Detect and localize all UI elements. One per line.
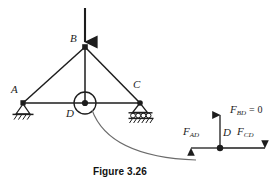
force-symbol-fcd: F [237, 125, 244, 137]
truss-members [23, 47, 140, 103]
node-b [82, 44, 88, 50]
pin-support-a [13, 104, 34, 120]
figure-caption: Figure 3.26 [93, 166, 147, 177]
member-BC [85, 47, 140, 103]
force-label-fcd: FCD [237, 126, 254, 137]
member-AB [23, 47, 85, 103]
figure-container: A B C D Figure 3.26 FBD = 0 FAD FCD D [0, 0, 278, 184]
joint-label-d: D [66, 108, 74, 119]
joint-label-b: B [70, 33, 77, 44]
fbd-joint-label-d: D [223, 127, 231, 138]
force-equals-fbd: = 0 [249, 104, 263, 115]
roller-support-c [129, 103, 154, 123]
force-subscript-fbd: BD [237, 109, 246, 117]
joint-label-c: C [133, 79, 140, 90]
force-label-fad: FAD [183, 126, 199, 137]
force-label-fbd: FBD = 0 [230, 104, 263, 115]
force-subscript-fad: AD [190, 131, 199, 139]
joint-label-a: A [11, 84, 18, 95]
figure-drawing [0, 0, 278, 184]
force-symbol-fbd: F [230, 103, 237, 115]
roller-wheels [131, 113, 151, 118]
force-symbol-fad: F [183, 125, 190, 137]
force-subscript-fcd: CD [244, 131, 254, 139]
fbd-joint-node-d [217, 145, 223, 151]
joint-nodes [20, 44, 142, 106]
